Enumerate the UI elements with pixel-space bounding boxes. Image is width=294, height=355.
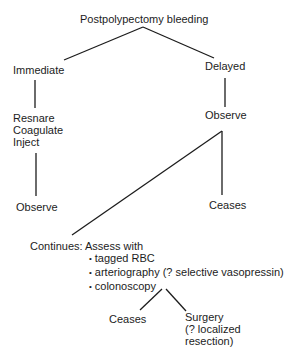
final-ceases-node: Ceases xyxy=(109,313,146,325)
continues-label: Continues: Assess with xyxy=(30,240,143,252)
root-label: Postpolypectomy bleeding xyxy=(80,13,208,25)
immediate-label: Immediate xyxy=(13,64,64,76)
delayed-ceases-node: Ceases xyxy=(209,199,246,211)
action-inject: Inject xyxy=(13,136,63,148)
action-coagulate: Coagulate xyxy=(13,124,63,136)
surgery-detail-1: (? localized xyxy=(185,323,241,335)
edge-root-immediate xyxy=(64,27,143,60)
delayed-observe-node: Observe xyxy=(205,109,247,121)
final-ceases-label: Ceases xyxy=(109,313,146,325)
connector-lines xyxy=(0,0,294,355)
delayed-observe-label: Observe xyxy=(205,109,247,121)
action-resnare: Resnare xyxy=(13,112,63,124)
surgery-label: Surgery xyxy=(185,311,241,323)
edge-observe-continues xyxy=(72,131,222,235)
root-node: Postpolypectomy bleeding xyxy=(80,13,208,25)
assessment-list: tagged RBC arteriography (? selective va… xyxy=(89,252,284,294)
continues-node: Continues: Assess with xyxy=(30,240,143,252)
surgery-node: Surgery (? localized resection) xyxy=(185,311,241,347)
surgery-detail-2: resection) xyxy=(185,335,241,347)
delayed-ceases-label: Ceases xyxy=(209,199,246,211)
delayed-node: Delayed xyxy=(205,60,245,72)
assessment-item: colonoscopy xyxy=(89,280,284,294)
immediate-observe-node: Observe xyxy=(16,201,58,213)
delayed-label: Delayed xyxy=(205,60,245,72)
assessment-item: arteriography (? selective vasopressin) xyxy=(89,266,284,280)
immediate-actions-node: Resnare Coagulate Inject xyxy=(13,112,63,148)
edge-root-delayed xyxy=(143,27,214,58)
immediate-node: Immediate xyxy=(13,64,64,76)
immediate-observe-label: Observe xyxy=(16,201,58,213)
assessment-item: tagged RBC xyxy=(89,252,284,266)
